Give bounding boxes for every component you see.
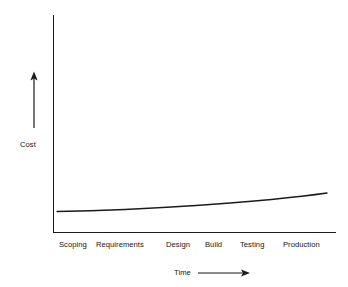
- time-axis-arrow-icon: [198, 269, 250, 276]
- x-axis-title: Time: [174, 268, 191, 278]
- x-tick-label-design: Design: [166, 240, 190, 250]
- x-tick-label-production: Production: [283, 240, 320, 250]
- chart-container: Scoping Requirements Design Build Testin…: [0, 0, 348, 287]
- x-tick-label-scoping: Scoping: [59, 240, 87, 250]
- cost-curve: [57, 193, 327, 212]
- x-tick-label-build: Build: [205, 240, 222, 250]
- x-tick-label-testing: Testing: [240, 240, 264, 250]
- x-tick-label-requirements: Requirements: [96, 240, 144, 250]
- cost-axis-arrow-icon: [30, 72, 37, 129]
- y-axis-title: Cost: [20, 140, 36, 150]
